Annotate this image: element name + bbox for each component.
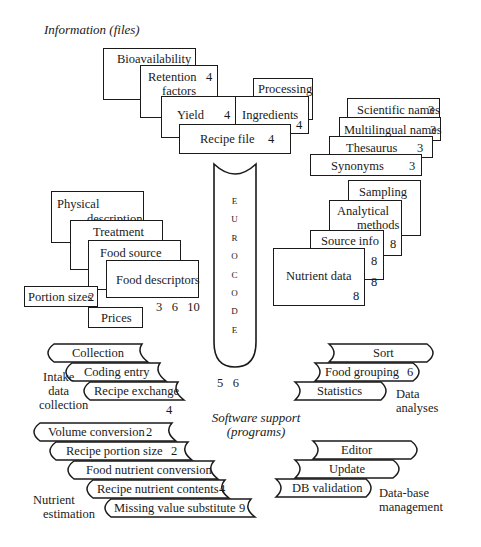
file-recipe: Recipe file 4 <box>179 124 291 154</box>
label-line: estimation <box>43 507 95 521</box>
label: Sampling <box>359 185 407 199</box>
ref-number: 2 <box>171 444 177 458</box>
ref-number: 4 <box>296 118 302 132</box>
ref-number: 4 <box>206 70 212 84</box>
label: Editor <box>341 443 372 457</box>
label: Physical <box>57 197 99 211</box>
information-section-title: Information (files) <box>44 22 140 38</box>
label: Yield <box>177 108 204 122</box>
ref-number: 2 <box>88 290 94 304</box>
label-line: data <box>29 384 88 398</box>
program-sort: Sort <box>327 343 442 363</box>
ref-number: 3 <box>417 141 423 155</box>
label: Processing <box>258 82 312 96</box>
ref-number: 8 <box>353 289 359 303</box>
program-volume-conversion: Volume conversion 2 <box>30 422 180 442</box>
file-nutrient-data: Nutrient data 8 <box>273 248 365 306</box>
letter: D <box>210 302 260 320</box>
intake-label: Intake data collection <box>29 370 88 412</box>
title-line: (programs) <box>206 425 306 439</box>
ref-number: 4 <box>219 482 225 496</box>
label: Volume conversion <box>48 425 145 439</box>
ref-number: 2 <box>146 425 152 439</box>
label: Food source <box>100 246 161 260</box>
file-synonyms: Synonyms 3 <box>310 154 422 176</box>
food-group-refs: 3 6 10 <box>156 300 200 314</box>
letter: O <box>210 284 260 302</box>
label-line: Intake <box>29 370 88 384</box>
letter: O <box>210 247 260 265</box>
label: Bioavailability <box>117 52 191 66</box>
label: Nutrient data <box>286 269 352 283</box>
label: Recipe file <box>200 132 255 146</box>
label: Missing value substitute <box>114 501 236 515</box>
letter: E <box>210 321 260 339</box>
ref-number: 3 <box>428 103 434 117</box>
label: Food nutrient conversion <box>86 463 212 477</box>
label: Thesaurus <box>346 141 397 155</box>
label-line: analyses <box>396 401 438 415</box>
label: Food grouping <box>325 365 399 379</box>
program-db-validation: DB validation <box>274 478 379 498</box>
ref-number: 8 <box>371 275 377 289</box>
label-line: Data <box>396 387 438 401</box>
label-line: Nutrient <box>33 493 95 507</box>
label: Prices <box>101 311 132 325</box>
ref-number: 6 <box>407 365 413 379</box>
ref-number: 4 <box>268 132 274 146</box>
file-portion-sizes: Portion sizes 2 <box>24 286 98 307</box>
program-recipe-exchange: Recipe exchange <box>80 381 195 401</box>
file-food-descriptors: Food descriptors <box>106 260 199 298</box>
ref-number: 8 <box>390 237 396 251</box>
eurocode-letters: E U R O C O D E <box>210 192 260 339</box>
label: Recipe portion size <box>66 444 163 458</box>
management-label: Data-base management <box>379 486 443 514</box>
letter: C <box>210 266 260 284</box>
file-prices: Prices <box>88 307 143 328</box>
label: Multilingual names <box>344 123 442 137</box>
label: Collection <box>72 346 124 360</box>
label: Treatment <box>93 225 144 239</box>
ref-number: 3 <box>409 159 415 173</box>
program-statistics: Statistics <box>293 381 393 401</box>
estimation-label: Nutrient estimation <box>33 493 95 521</box>
label: Retention <box>148 70 197 84</box>
label: DB validation <box>292 481 362 495</box>
program-collection: Collection <box>44 343 159 363</box>
program-food-grouping: Food grouping 6 <box>313 362 428 382</box>
label: Update <box>329 462 365 476</box>
label: Food descriptors <box>116 273 200 287</box>
label: Ingredients <box>242 108 298 122</box>
label-line: collection <box>39 398 88 412</box>
eurocode-refs: 5 6 <box>217 376 239 390</box>
program-update: Update <box>293 459 408 479</box>
label: Coding entry <box>84 365 150 379</box>
program-food-nutrient-conversion: Food nutrient conversion <box>64 460 222 480</box>
eurocode-database: E U R O C O D E <box>210 162 260 372</box>
label: Portion sizes <box>28 290 92 304</box>
label: Synonyms <box>331 159 384 173</box>
letter: E <box>210 192 260 210</box>
analyses-label: Data analyses <box>396 387 438 415</box>
program-editor: Editor <box>311 440 426 460</box>
program-recipe-portion-size: Recipe portion size 2 <box>46 441 196 461</box>
program-recipe-nutrient-contents: Recipe nutrient contents 4 <box>83 479 233 499</box>
label-line: Data-base <box>379 486 443 500</box>
label: Sort <box>373 346 394 360</box>
label: Source info <box>321 234 379 248</box>
program-missing-value-substitute: Missing value substitute 9 <box>101 498 259 518</box>
ref-number: 4 <box>224 108 230 122</box>
title-line: Software support <box>206 411 306 425</box>
letter: U <box>210 210 260 228</box>
software-section-title: Software support (programs) <box>206 411 306 439</box>
ref-number: 3 <box>430 123 436 137</box>
label: Statistics <box>317 384 362 398</box>
ref-number: 4 <box>166 403 172 417</box>
ref-number: 9 <box>239 501 245 515</box>
ref-number: 8 <box>371 254 377 268</box>
letter: R <box>210 229 260 247</box>
label: Recipe nutrient contents <box>97 482 219 496</box>
label: Recipe exchange <box>94 384 179 398</box>
label-line: management <box>379 500 443 514</box>
label: Analytical <box>337 204 389 218</box>
